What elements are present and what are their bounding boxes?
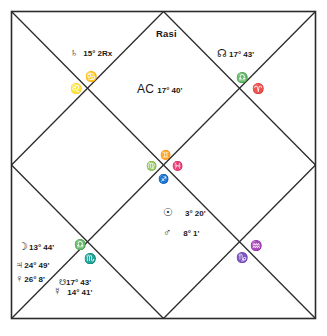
saturn-icon: ♄	[70, 47, 78, 58]
venus-icon: ♀	[15, 273, 23, 284]
rahu-icon: ☊	[217, 48, 227, 59]
sign-scorpio-icon: ♏	[84, 254, 96, 264]
planet-moon: ☽ 13° 44'	[18, 241, 54, 252]
sun-icon: ☉	[163, 207, 173, 218]
planet-rahu: ☊ 17° 43'	[217, 48, 254, 59]
mars-icon: ♂	[163, 227, 171, 238]
sign-pisces-icon: ♓	[172, 162, 183, 171]
sign-gemini-icon: ♊	[160, 151, 171, 160]
planet-venus: ♀ 26° 8'	[15, 273, 49, 284]
rasi-chart: Rasi AC17° 40' ♄ 15° 2Rx ☊ 17° 43' ☉ 3° …	[0, 0, 327, 336]
sign-aries-icon: ♈	[252, 84, 264, 94]
mercury-degree: 14° 41'	[67, 289, 92, 297]
planet-sun: ☉ 3° 20'	[163, 207, 206, 218]
jupiter-icon: ♃	[15, 259, 23, 270]
jupiter-degree: 24° 49'	[24, 262, 49, 270]
sign-libra-upper-icon: ♎	[236, 73, 248, 83]
mercury-icon: ☿	[53, 286, 61, 297]
ascendant-label: AC17° 40'	[137, 83, 182, 95]
planet-mercury: ☿ 14° 41'	[53, 286, 92, 297]
sign-cancer-icon: ♋	[85, 72, 97, 82]
planet-group-center-lower: ☉ 3° 20' ♂ 8° 1'	[163, 207, 206, 238]
planet-mars: ♂ 8° 1'	[163, 227, 206, 238]
planet-saturn: ♄ 15° 2Rx	[70, 47, 112, 58]
chart-title: Rasi	[156, 29, 177, 39]
sign-leo-icon: ♌	[70, 84, 82, 94]
ascendant-degree: 17° 40'	[157, 86, 182, 95]
ascendant-abbr: AC	[137, 82, 154, 96]
moon-icon: ☽	[18, 241, 28, 252]
chart-lines	[0, 0, 327, 336]
sign-virgo-icon: ♍	[146, 162, 157, 171]
rahu-degree: 17° 43'	[229, 51, 254, 59]
mars-degree: 8° 1'	[183, 230, 199, 238]
sign-aquarius-icon: ♒	[250, 241, 262, 251]
planet-group-bottom-left: ♃ 24° 49' ♀ 26° 8'	[15, 259, 49, 284]
planet-jupiter: ♃ 24° 49'	[15, 259, 49, 270]
sign-capricorn-icon: ♑	[236, 253, 248, 263]
sign-libra-icon: ♎	[74, 240, 86, 250]
venus-degree: 26° 8'	[24, 276, 45, 284]
sun-degree: 3° 20'	[185, 210, 206, 218]
saturn-degree: 15° 2Rx	[83, 50, 112, 58]
sign-sagittarius-icon: ♐	[158, 175, 169, 184]
moon-degree: 13° 44'	[29, 244, 54, 252]
